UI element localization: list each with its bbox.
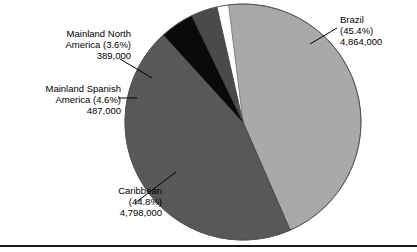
- label-mainland-north-america-line1: Mainland North: [66, 28, 131, 39]
- label-brazil-line3: 4,864,000: [340, 36, 382, 47]
- label-mainland-spanish-america-line2: America (4.6%): [45, 94, 121, 105]
- label-caribbean: Caribbean (44.8%) 4,798,000: [118, 185, 162, 219]
- label-brazil: Brazil (45.4%) 4,864,000: [340, 14, 382, 48]
- label-mainland-north-america: Mainland North America (3.6%) 389,000: [66, 28, 131, 62]
- label-brazil-line1: Brazil: [340, 14, 382, 25]
- label-mainland-north-america-line2: America (3.6%): [66, 39, 131, 50]
- label-mainland-spanish-america: Mainland Spanish America (4.6%) 487,000: [45, 83, 121, 117]
- label-mainland-spanish-america-line1: Mainland Spanish: [45, 83, 121, 94]
- label-caribbean-line1: Caribbean: [118, 185, 162, 196]
- footer-rule: [0, 245, 417, 247]
- label-mainland-north-america-line3: 389,000: [66, 50, 131, 61]
- label-brazil-line2: (45.4%): [340, 25, 382, 36]
- label-mainland-spanish-america-line3: 487,000: [45, 105, 121, 116]
- label-caribbean-line2: (44.8%): [118, 196, 162, 207]
- pie-chart-figure: Brazil (45.4%) 4,864,000 Mainland North …: [0, 0, 417, 252]
- label-caribbean-line3: 4,798,000: [118, 207, 162, 218]
